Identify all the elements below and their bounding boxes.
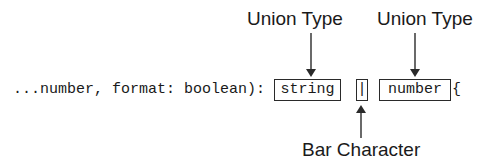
open-brace: { — [452, 80, 461, 100]
arrow-up-icon — [356, 105, 366, 138]
bar-character-label: Bar Character — [302, 139, 420, 161]
union-type-box-string: string — [274, 79, 341, 101]
arrow-down-icon — [306, 33, 316, 77]
code-prefix: ...number, format: boolean): — [13, 80, 265, 100]
arrow-down-icon — [410, 33, 420, 77]
union-type-box-number: number — [379, 79, 451, 101]
bar-character-box: | — [356, 79, 368, 101]
